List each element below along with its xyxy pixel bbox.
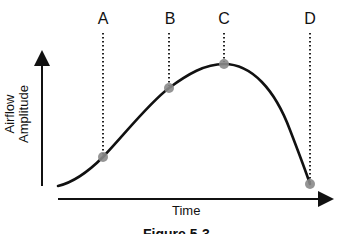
x-axis-label: Time [172, 203, 200, 218]
marker-point-d [305, 179, 315, 189]
figure-caption: Figure 5-3 [143, 226, 210, 234]
y-axis-label-line2: Amplitude [17, 69, 31, 159]
marker-label-d: D [300, 10, 320, 28]
marker-label-b: B [160, 10, 180, 28]
airflow-curve [58, 64, 310, 186]
y-axis-label: Airflow Amplitude [3, 69, 31, 159]
marker-label-a: A [93, 10, 113, 28]
marker-point-a [98, 152, 108, 162]
y-axis-label-line1: Airflow [3, 69, 17, 159]
diagram-canvas [0, 0, 342, 234]
airflow-diagram: A B C D Airflow Amplitude Time Figure 5-… [0, 0, 342, 234]
marker-point-b [164, 83, 174, 93]
marker-label-c: C [214, 10, 234, 28]
marker-point-c [219, 59, 229, 69]
